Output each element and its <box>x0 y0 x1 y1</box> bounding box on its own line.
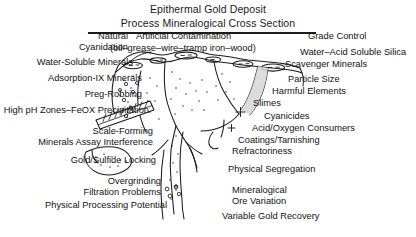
label-natural: Natural <box>0 31 128 42</box>
label-overgrinding: Overgrinding <box>0 176 161 187</box>
label-physical-segregation: Physical Segregation <box>228 164 315 175</box>
label-water-soluble-minerals: Water-Soluble Minerals <box>0 57 133 68</box>
label-acid-oxygen-consumers: Acid/Oxygen Consumers <box>252 123 355 134</box>
label-artificial-contamination-detail: (oil–grease–wire–tramp iron–wood) <box>110 43 256 54</box>
label-scale-forming: Scale-Forming <box>0 126 153 137</box>
label-gold-sulfide-locking: Gold/Sulfide Locking <box>0 155 156 166</box>
label-scavenger-minerals: Scavenger Minerals <box>285 59 367 70</box>
label-grade-control: Grade Control <box>308 31 366 42</box>
label-cyanicides: Cyanicides <box>264 111 309 122</box>
label-high-ph-zones-feox: High pH Zones–FeOX Precipitation <box>0 105 149 116</box>
label-adsorption-ix-minerals: Adsorption-IX Minerals <box>0 73 142 84</box>
label-artificial-contamination: Artificial Contamination <box>136 31 231 42</box>
label-minerals-assay-interference: Minerals Assay Interference <box>0 137 153 148</box>
label-preg-robbing: Preg-Robbing <box>0 89 142 100</box>
label-cyanidation: Cyanidation <box>0 42 128 53</box>
figure-root: Epithermal Gold Deposit Process Mineralo… <box>0 0 416 237</box>
label-ore-variation: Ore Variation <box>232 196 286 207</box>
label-filtration-problems: Filtration Problems <box>0 187 161 198</box>
label-water-acid-soluble-silica: Water–Acid Soluble Silica <box>300 47 406 58</box>
label-variable-gold-recovery: Variable Gold Recovery <box>222 211 320 222</box>
label-harmful-elements: Harmful Elements <box>272 86 346 97</box>
label-particle-size: Particle Size <box>288 74 340 85</box>
label-physical-processing-potential: Physical Processing Potential <box>0 200 167 211</box>
label-refractoriness: Refractoriness <box>232 146 292 157</box>
label-mineralogical: Mineralogical <box>232 185 287 196</box>
label-slimes: Slimes <box>253 98 281 109</box>
label-coatings-tarnishing: Coatings/Tarnishing <box>238 135 320 146</box>
